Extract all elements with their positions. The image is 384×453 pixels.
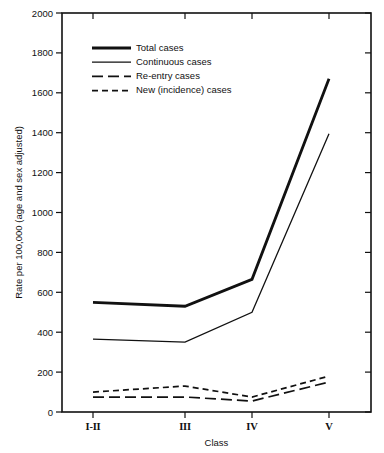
y-tick-label-1800: 1800 bbox=[32, 47, 53, 58]
x-tick-label-V: V bbox=[325, 421, 333, 432]
chart-figure: 0200400600800100012001400160018002000I-I… bbox=[0, 0, 384, 453]
legend-label-new-incidence-cases: New (incidence) cases bbox=[136, 84, 232, 95]
series-line-new-incidence-cases bbox=[93, 376, 329, 397]
y-tick-label-0: 0 bbox=[48, 407, 53, 418]
x-tick-label-IV: IV bbox=[246, 421, 258, 432]
legend-label-re-entry-cases: Re-entry cases bbox=[136, 70, 200, 81]
y-tick-label-1000: 1000 bbox=[32, 207, 53, 218]
chart-legend: Total casesContinuous casesRe-entry case… bbox=[92, 42, 232, 96]
y-axis-title: Rate per 100,000 (age and sex adjusted) bbox=[13, 126, 24, 299]
plot-frame bbox=[62, 13, 371, 412]
legend-label-continuous-cases: Continuous cases bbox=[136, 56, 212, 67]
y-tick-label-1600: 1600 bbox=[32, 87, 53, 98]
series-line-total-cases bbox=[93, 79, 329, 306]
legend-label-total-cases: Total cases bbox=[136, 42, 184, 53]
y-tick-label-800: 800 bbox=[37, 247, 53, 258]
y-tick-label-600: 600 bbox=[37, 287, 53, 298]
series-line-continuous-cases bbox=[93, 134, 329, 342]
x-tick-label-III: III bbox=[179, 421, 191, 432]
y-tick-label-1200: 1200 bbox=[32, 167, 53, 178]
y-tick-label-2000: 2000 bbox=[32, 8, 53, 19]
y-tick-label-200: 200 bbox=[37, 367, 53, 378]
x-tick-label-I-II: I-II bbox=[86, 421, 101, 432]
line-chart: 0200400600800100012001400160018002000I-I… bbox=[0, 0, 384, 453]
y-tick-label-1400: 1400 bbox=[32, 127, 53, 138]
x-axis-title: Class bbox=[205, 437, 229, 448]
y-tick-label-400: 400 bbox=[37, 327, 53, 338]
